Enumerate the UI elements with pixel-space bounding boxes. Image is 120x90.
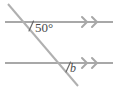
geometry-figure: 50° b (0, 0, 120, 90)
upper-angle-label: 50° (35, 21, 53, 34)
lower-angle-label: b (70, 62, 76, 74)
geometry-canvas (0, 0, 120, 90)
transversal-line (8, 4, 78, 86)
